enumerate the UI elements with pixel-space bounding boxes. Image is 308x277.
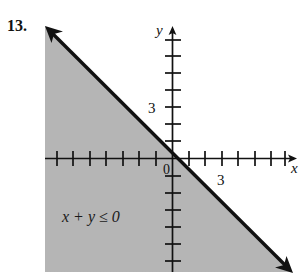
figure-page: 13. (0, 0, 308, 277)
coordinate-plane-figure: x y 0 3 3 x + y ≤ 0 (0, 0, 308, 277)
inequality-label: x + y ≤ 0 (61, 208, 120, 226)
x-tick-label-3: 3 (217, 172, 225, 188)
x-axis-label: x (290, 160, 298, 176)
y-axis-label: y (154, 22, 163, 38)
y-tick-label-3: 3 (148, 100, 156, 116)
origin-label: 0 (163, 162, 170, 177)
